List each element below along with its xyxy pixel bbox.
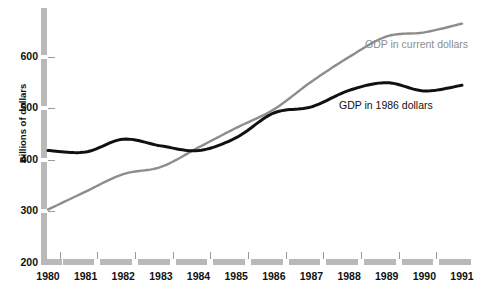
series-line-gdp-current-dollars [48, 24, 462, 210]
series-line-gdp-1986-dollars [48, 83, 462, 153]
series-label-gdp-1986-dollars: GDP in 1986 dollars [339, 99, 433, 111]
series-label-gdp-current-dollars: GDP in current dollars [365, 38, 468, 50]
